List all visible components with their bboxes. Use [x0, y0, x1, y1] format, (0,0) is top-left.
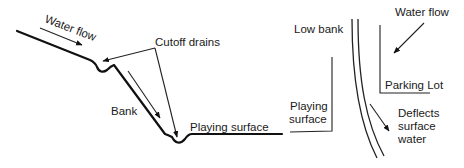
deflects-label-line2: surface [398, 120, 436, 132]
deflect-arrow-icon [370, 104, 389, 131]
cutoff-drain-pointer-top-icon [103, 48, 155, 61]
low-bank-line-outer [352, 19, 377, 158]
left-cross-section-diagram: Water flow Cutoff drains Bank Playing su… [17, 13, 282, 143]
water-flow-label-right: Water flow [395, 6, 450, 18]
deflects-label-line3: water [397, 133, 426, 145]
bank-label: Bank [111, 105, 137, 117]
deflects-label-line1: Deflects [398, 107, 440, 119]
playing-surface-label-line1: Playing [290, 100, 328, 112]
playing-surface-label-line2: surface [289, 113, 327, 125]
water-flow-arrow-right-icon [394, 23, 424, 53]
parking-lot-label: Parking Lot [385, 79, 444, 91]
playing-surface-label: Playing surface [190, 121, 269, 133]
drainage-diagram: Water flow Cutoff drains Bank Playing su… [0, 0, 464, 168]
water-flow-label: Water flow [43, 13, 98, 44]
low-bank-label: Low bank [294, 23, 343, 35]
cutoff-drains-label: Cutoff drains [155, 36, 220, 48]
right-plan-view-diagram: Low bank Playing surface Parking Lot Wat… [289, 6, 450, 158]
